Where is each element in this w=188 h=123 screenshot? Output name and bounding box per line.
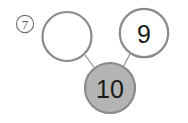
part-right-value: 9 bbox=[137, 20, 151, 48]
whole-value: 10 bbox=[96, 75, 124, 103]
number-bond-diagram: 9 10 7 bbox=[0, 0, 188, 123]
item-number-label: 7 bbox=[22, 17, 29, 32]
part-circle-left-blank[interactable] bbox=[43, 12, 92, 61]
number-bond-exercise: 9 10 7 bbox=[0, 0, 188, 123]
